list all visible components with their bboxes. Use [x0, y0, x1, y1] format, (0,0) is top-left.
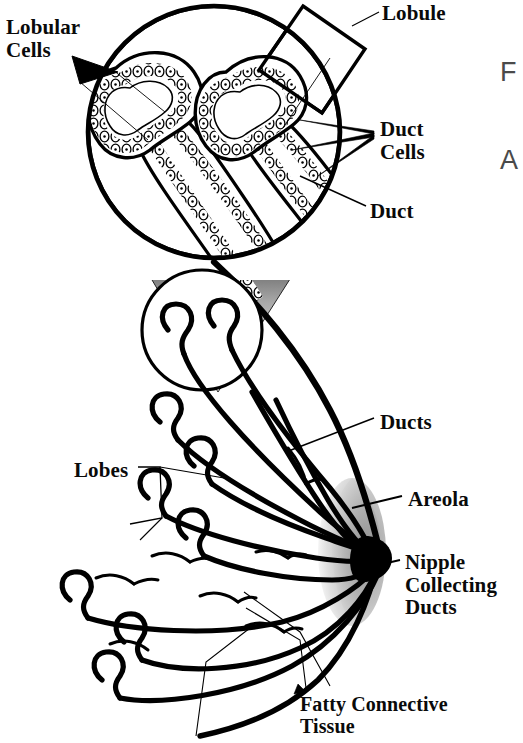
label-lobule: Lobule: [382, 2, 446, 25]
label-lobes: Lobes: [74, 459, 128, 482]
label-fatty-connective-tissue: Fatty Connective Tissue: [300, 694, 448, 737]
label-areola: Areola: [408, 488, 469, 511]
label-duct: Duct: [370, 200, 414, 223]
label-duct-cells: Duct Cells: [380, 118, 425, 163]
label-ducts: Ducts: [380, 411, 432, 434]
label-nipple-collecting-ducts: Nipple Collecting Ducts: [405, 551, 497, 619]
label-lobular-cells: Lobular Cells: [6, 16, 80, 61]
edge-cropped-text-line1: F: [500, 58, 523, 87]
edge-cropped-text-line2: A: [500, 146, 523, 175]
edge-cropped-text: F A: [500, 0, 523, 233]
